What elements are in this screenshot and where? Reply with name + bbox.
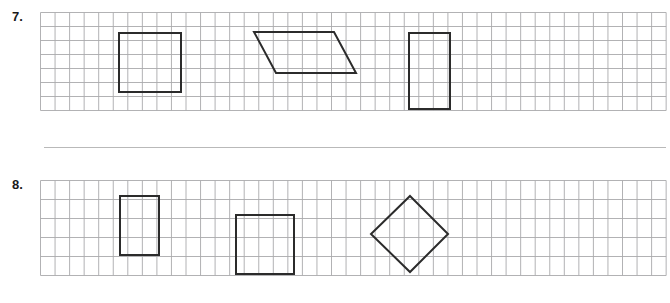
shape-square	[236, 215, 294, 274]
section-divider	[44, 147, 666, 148]
shapes	[120, 196, 448, 274]
grid-lines	[41, 181, 667, 276]
problem-8-grid	[40, 180, 668, 277]
shape-rectangle	[409, 33, 450, 109]
shape-parallelogram	[254, 32, 356, 73]
shape-rectangle	[120, 196, 159, 255]
problem-7-grid	[40, 12, 668, 112]
grid-lines	[41, 13, 667, 111]
problem-8-grid-svg	[40, 180, 668, 277]
shape-diamond	[371, 196, 448, 272]
worksheet-page: 7. 8.	[0, 0, 670, 303]
problem-8-number: 8.	[12, 177, 23, 192]
shapes	[119, 32, 450, 109]
problem-7-number: 7.	[12, 9, 23, 24]
problem-7-grid-svg	[40, 12, 668, 112]
